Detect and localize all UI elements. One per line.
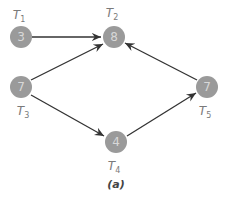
node-label: T5	[199, 104, 211, 120]
node-label: T3	[17, 104, 29, 120]
node-value: 4	[112, 135, 120, 149]
node-value: 8	[110, 30, 118, 44]
edge-t3-t2	[31, 44, 103, 80]
node-t2: 8 T2	[103, 6, 125, 48]
task-graph: 3 T1 8 T2 7 T3 4 T4 7 T5 (a)	[0, 0, 231, 202]
node-label: T2	[106, 6, 118, 22]
edge-t3-t4	[31, 95, 104, 136]
node-t1: 3 T1	[10, 8, 32, 48]
figure-caption: (a)	[107, 178, 124, 191]
edge-t4-t5	[127, 93, 196, 136]
node-value: 3	[17, 30, 25, 44]
node-label: T4	[108, 159, 120, 175]
node-t3: 7 T3	[10, 76, 32, 120]
node-t5: 7 T5	[196, 76, 218, 120]
node-label: T1	[13, 8, 25, 24]
node-value: 7	[17, 80, 25, 94]
node-t4: 4 T4	[105, 131, 127, 175]
node-value: 7	[203, 80, 211, 94]
edge-t5-t2	[125, 43, 197, 80]
